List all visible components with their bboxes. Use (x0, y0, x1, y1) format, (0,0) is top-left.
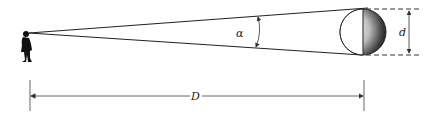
angular-size-diagram: α d D (0, 0, 440, 117)
sphere-icon (340, 9, 386, 55)
sight-lines (29, 8, 368, 55)
lower-sight-line (29, 33, 362, 55)
upper-sight-line (29, 8, 368, 33)
diameter-label: d (399, 26, 406, 39)
distance-label: D (190, 90, 200, 103)
angle-label: α (236, 27, 244, 40)
observer-silhouette-icon (21, 31, 32, 62)
angle-arc (256, 17, 260, 47)
